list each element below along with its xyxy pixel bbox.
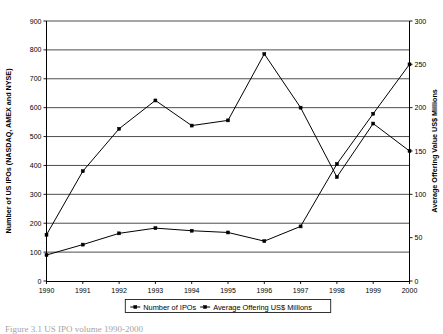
series-line-1: [47, 64, 410, 255]
left-tick-label: 400: [30, 162, 42, 169]
left-tick-label: 500: [30, 133, 42, 140]
right-axis-title: Average Offering Value US$ Millions: [430, 89, 439, 213]
data-point-marker: [372, 122, 375, 125]
left-tick-label: 100: [30, 249, 42, 256]
data-point-marker: [81, 170, 84, 173]
left-tick-label: 800: [30, 46, 42, 53]
x-tick-label: 1992: [111, 287, 127, 294]
data-point-marker: [190, 124, 193, 127]
legend: Number of IPOsAverage Offering US$ Milli…: [125, 300, 330, 313]
data-point-marker: [372, 112, 375, 115]
data-point-marker: [335, 176, 338, 179]
data-point-marker: [154, 227, 157, 230]
legend-marker-1: [204, 306, 207, 309]
left-axis-title: Number of US IPOs (NASDAQ, AMEX and NYSE…: [4, 68, 13, 234]
data-point-marker: [45, 254, 48, 257]
data-point-marker: [335, 163, 338, 166]
series-line-0: [47, 54, 410, 235]
data-point-marker: [45, 233, 48, 236]
left-tick-label: 300: [30, 191, 42, 198]
right-tick-label: 100: [415, 191, 427, 198]
x-tick-label: 1997: [293, 287, 309, 294]
right-tick-label: 0: [415, 278, 419, 285]
left-tick-label: 900: [30, 18, 42, 25]
x-tick-label: 1995: [220, 287, 236, 294]
x-tick-label: 1994: [184, 287, 200, 294]
data-point-marker: [118, 232, 121, 235]
data-point-marker: [263, 240, 266, 243]
data-point-marker: [190, 229, 193, 232]
x-tick-label: 1998: [329, 287, 345, 294]
x-axis-ticks: 1990199119921993199419951996199719981999…: [39, 281, 418, 294]
data-point-marker: [408, 150, 411, 153]
data-point-marker: [154, 99, 157, 102]
right-tick-label: 50: [415, 234, 423, 241]
right-tick-label: 250: [415, 61, 427, 68]
x-tick-label: 2000: [402, 287, 418, 294]
left-tick-label: 700: [30, 75, 42, 82]
legend-label-0: Number of IPOs: [143, 303, 196, 312]
x-tick-label: 1993: [148, 287, 164, 294]
data-point-marker: [227, 119, 230, 122]
left-axis-ticks: 0100200300400500600700800900: [30, 18, 47, 285]
gridlines-group: [47, 21, 410, 252]
data-point-marker: [227, 231, 230, 234]
x-tick-label: 1996: [257, 287, 273, 294]
legend-label-1: Average Offering US$ Millions: [213, 303, 312, 312]
data-point-marker: [81, 243, 84, 246]
data-point-marker: [408, 63, 411, 66]
right-tick-label: 200: [415, 104, 427, 111]
data-series-group: [45, 52, 411, 256]
left-tick-label: 0: [38, 278, 42, 285]
x-tick-label: 1999: [365, 287, 381, 294]
right-tick-label: 300: [415, 18, 427, 25]
data-point-marker: [263, 52, 266, 55]
x-tick-label: 1991: [75, 287, 91, 294]
data-point-marker: [118, 127, 121, 130]
right-tick-label: 150: [415, 148, 427, 155]
left-tick-label: 600: [30, 104, 42, 111]
right-axis-ticks: 050100150200250300: [410, 18, 427, 285]
data-point-marker: [299, 106, 302, 109]
figure-caption: Figure 3.1 US IPO volume 1990-2000: [5, 324, 143, 334]
left-tick-label: 200: [30, 220, 42, 227]
data-point-marker: [299, 225, 302, 228]
x-tick-label: 1990: [39, 287, 55, 294]
legend-marker-0: [134, 306, 137, 309]
